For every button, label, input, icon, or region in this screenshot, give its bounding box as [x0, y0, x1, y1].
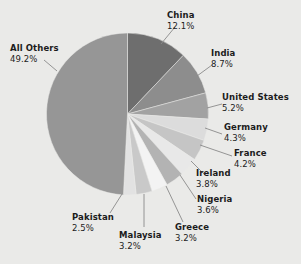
slice-label-pakistan: Pakistan 2.5%: [72, 212, 114, 233]
slice-label-ireland-value: 3.8%: [196, 179, 231, 190]
slice-label-greece-name: Greece: [175, 222, 209, 233]
slice-label-pakistan-value: 2.5%: [72, 223, 114, 234]
slice-label-greece-value: 3.2%: [175, 233, 209, 244]
slice-label-germany-value: 4.3%: [224, 133, 268, 144]
leader-line-nigeria: [180, 175, 196, 199]
slice-label-germany: Germany 4.3%: [224, 122, 268, 143]
slice-label-united-states: United States 5.2%: [222, 92, 289, 113]
slice-label-india-name: India: [211, 48, 235, 59]
leader-line-greece: [166, 186, 183, 222]
slice-label-france: France 4.2%: [234, 148, 267, 169]
slice-label-india: India 8.7%: [211, 48, 235, 69]
slice-label-france-name: France: [234, 148, 267, 159]
leader-line-india: [197, 65, 212, 76]
slice-label-nigeria: Nigeria 3.6%: [197, 194, 232, 215]
slice-label-france-value: 4.2%: [234, 159, 267, 170]
slice-label-united-states-name: United States: [222, 92, 289, 103]
leader-line-france: [200, 145, 232, 156]
slice-label-ireland: Ireland 3.8%: [196, 168, 231, 189]
leader-line-pakistan: [110, 194, 122, 213]
slice-label-nigeria-name: Nigeria: [197, 194, 232, 205]
slice-label-nigeria-value: 3.6%: [197, 205, 232, 216]
slice-label-malaysia: Malaysia 3.2%: [119, 230, 162, 251]
pie-chart: China 12.1% India 8.7% United States 5.2…: [0, 0, 301, 264]
slice-label-china-value: 12.1%: [167, 21, 195, 32]
slice-label-all-others-name: All Others: [10, 43, 59, 54]
slice-label-pakistan-name: Pakistan: [72, 212, 114, 223]
leader-line-germany: [205, 128, 222, 134]
leader-line-united-states: [207, 104, 222, 108]
slice-label-china: China 12.1%: [167, 10, 195, 31]
slice-label-china-name: China: [167, 10, 195, 21]
pie-slice-group: [46, 33, 208, 195]
slice-label-greece: Greece 3.2%: [175, 222, 209, 243]
slice-label-malaysia-name: Malaysia: [119, 230, 162, 241]
slice-label-all-others: All Others 49.2%: [10, 43, 59, 64]
slice-label-all-others-value: 49.2%: [10, 54, 59, 65]
slice-label-india-value: 8.7%: [211, 59, 235, 70]
slice-label-germany-name: Germany: [224, 122, 268, 133]
slice-label-malaysia-value: 3.2%: [119, 241, 162, 252]
slice-label-ireland-name: Ireland: [196, 168, 231, 179]
slice-label-united-states-value: 5.2%: [222, 103, 289, 114]
